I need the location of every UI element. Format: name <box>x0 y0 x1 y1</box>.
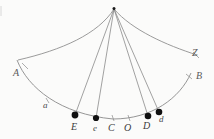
point-marker-D <box>145 113 152 120</box>
point-marker-e <box>93 115 99 121</box>
label-E: E <box>71 122 77 132</box>
tick-mark-B <box>186 74 192 79</box>
apex-point <box>113 7 116 10</box>
tick-mark-C <box>112 115 114 121</box>
label-O: O <box>124 123 131 133</box>
point-marker-E <box>72 112 79 119</box>
label-A: A <box>13 68 19 78</box>
label-D: D <box>143 121 150 131</box>
diagram-svg <box>0 0 214 139</box>
label-a: a <box>43 101 48 110</box>
tick-mark-A <box>22 63 28 69</box>
label-d: d <box>159 115 164 124</box>
figure-canvas: A Z B a E e C O D d <box>0 0 214 139</box>
label-Z: Z <box>192 48 198 58</box>
upper-left-curve <box>18 9 114 60</box>
label-e: e <box>93 124 97 133</box>
radial-line-d <box>114 9 159 112</box>
label-B: B <box>196 71 202 81</box>
radial-line-D <box>114 9 148 116</box>
label-C: C <box>108 123 115 133</box>
radial-line-E <box>75 9 114 115</box>
